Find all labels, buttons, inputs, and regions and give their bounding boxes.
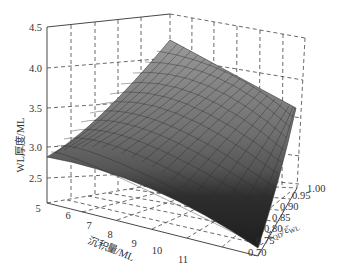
svg-text:4.0: 4.0	[29, 63, 42, 74]
svg-text:7: 7	[86, 220, 91, 231]
svg-text:4.5: 4.5	[29, 22, 42, 33]
svg-text:9: 9	[131, 238, 136, 249]
surface-chart: 4.5 4.0 3.5 3.0 2.5 WL厚度/ML 5 6 7 8 9 10…	[0, 0, 339, 276]
z-axis: 4.5 4.0 3.5 3.0 2.5 WL厚度/ML	[14, 22, 42, 184]
svg-text:8: 8	[107, 229, 112, 240]
svg-text:2.5: 2.5	[29, 173, 42, 184]
svg-text:5: 5	[35, 203, 40, 214]
svg-text:3.5: 3.5	[29, 103, 42, 114]
svg-text:3.0: 3.0	[29, 142, 42, 153]
svg-text:0.70: 0.70	[248, 247, 266, 258]
surface	[47, 40, 296, 248]
svg-text:10: 10	[152, 245, 163, 256]
svg-text:0.85: 0.85	[272, 212, 290, 223]
svg-text:6: 6	[65, 210, 70, 221]
svg-text:0.90: 0.90	[280, 201, 298, 212]
svg-text:1.00: 1.00	[307, 183, 325, 194]
svg-text:11: 11	[178, 254, 188, 265]
x-axis: 5 6 7 8 9 10 11 沉积量/ML	[35, 203, 188, 265]
z-axis-label: WL厚度/ML	[14, 118, 26, 173]
